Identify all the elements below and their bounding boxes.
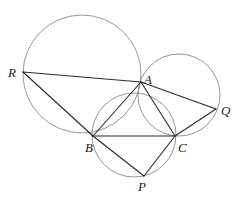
label-R: R <box>7 65 16 80</box>
segment-RA <box>23 72 141 82</box>
label-A: A <box>143 72 152 87</box>
segments-group <box>23 72 216 176</box>
label-C: C <box>178 140 187 155</box>
geometry-diagram: R A Q B C P <box>0 0 242 203</box>
circles-group <box>23 15 220 177</box>
circle-ACQ <box>138 54 220 136</box>
segment-AQ <box>141 82 216 109</box>
label-P: P <box>137 179 146 194</box>
circle-BCP <box>92 93 176 177</box>
segment-AB <box>93 82 141 136</box>
label-B: B <box>85 140 93 155</box>
segment-AC <box>141 82 175 136</box>
label-Q: Q <box>221 103 231 118</box>
segment-BP <box>93 136 144 176</box>
segment-RB <box>23 72 93 136</box>
